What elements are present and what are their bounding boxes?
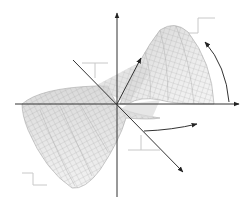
step-guide-bottom-center (128, 135, 160, 150)
step-guide-bottom-left (22, 173, 47, 185)
diagram-canvas (0, 0, 250, 205)
step-guide-top-right (188, 18, 215, 33)
rotation-arrow-bottom (144, 124, 197, 131)
surface-diagram: 3D twisted saddle surface with mesh grid… (0, 0, 250, 205)
step-guide-upper-left (82, 63, 108, 78)
surface-lower-lobe (22, 86, 160, 188)
